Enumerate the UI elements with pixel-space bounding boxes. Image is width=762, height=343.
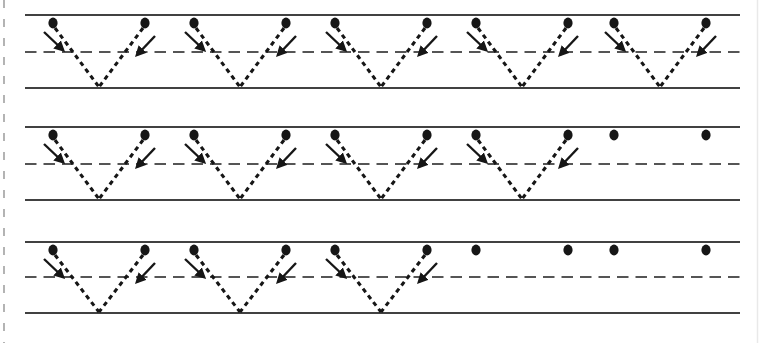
trace-stroke-down-left [240,28,284,87]
trace-stroke-down-left [522,28,566,87]
start-dot [701,130,710,141]
letter-v-trace-unit [185,245,296,312]
trace-stroke-down-right [196,140,240,199]
start-dot [140,245,149,256]
practice-row-1 [25,15,740,88]
start-dot [140,18,149,29]
trace-stroke-down-left [381,255,425,312]
stroke-direction-arrow-down-right [605,32,624,50]
trace-stroke-down-left [381,28,425,87]
trace-stroke-down-right [196,28,240,87]
start-dot [330,18,339,29]
start-dot [48,18,57,29]
worksheet-page [0,0,762,343]
stroke-direction-arrow-down-right [44,259,63,277]
start-dot [189,245,198,256]
stroke-direction-arrow-down-right [326,144,345,162]
start-dot [471,18,480,29]
trace-stroke-down-right [478,140,522,199]
start-dot [189,130,198,141]
trace-stroke-down-left [99,140,143,199]
start-dot [609,245,618,256]
stroke-direction-arrow-down-right [326,32,345,50]
stroke-direction-arrow-down-right [44,144,63,162]
stroke-direction-arrow-down-right [185,144,204,162]
stroke-direction-arrow-down-right [44,32,63,50]
start-dot [281,18,290,29]
letter-v-trace-unit [467,130,578,199]
start-dot [281,130,290,141]
trace-stroke-down-right [196,255,240,312]
start-dot [563,18,572,29]
trace-stroke-down-left [240,140,284,199]
letter-v-trace-unit [326,245,437,312]
start-dot [471,130,480,141]
practice-row-2 [25,127,740,200]
stroke-direction-arrow-down-right [326,259,345,277]
practice-rows-layer [25,15,740,313]
trace-stroke-down-left [240,255,284,312]
start-dot [422,18,431,29]
start-dot [422,130,431,141]
start-dot [563,130,572,141]
trace-stroke-down-right [55,140,99,199]
start-dots-only-unit [471,245,572,256]
start-dot [471,245,480,256]
start-dot [422,245,431,256]
trace-stroke-down-right [337,28,381,87]
trace-stroke-down-left [660,28,704,87]
trace-stroke-down-left [99,28,143,87]
start-dots-only-unit [609,245,710,256]
letter-v-trace-unit [467,18,578,87]
start-dot [330,245,339,256]
stroke-direction-arrow-down-left [278,263,296,282]
stroke-direction-arrow-down-right [185,32,204,50]
stroke-direction-arrow-down-left [137,263,155,282]
start-dot [701,245,710,256]
start-dot [609,130,618,141]
start-dot [609,18,618,29]
trace-stroke-down-right [337,255,381,312]
start-dot [563,245,572,256]
start-dots-only-unit [609,130,710,141]
start-dot [189,18,198,29]
start-dot [140,130,149,141]
stroke-direction-arrow-down-left [419,263,437,282]
trace-stroke-down-right [55,255,99,312]
stroke-direction-arrow-down-right [467,32,486,50]
start-dot [330,130,339,141]
letter-v-trace-unit [44,245,155,312]
trace-stroke-down-left [381,140,425,199]
trace-stroke-down-left [522,140,566,199]
trace-stroke-down-right [337,140,381,199]
start-dot [48,245,57,256]
start-dot [48,130,57,141]
trace-stroke-down-right [55,28,99,87]
practice-row-3 [25,242,740,313]
start-dot [701,18,710,29]
stroke-direction-arrow-down-right [467,144,486,162]
trace-stroke-down-right [478,28,522,87]
tracing-worksheet-canvas [0,0,762,343]
start-dot [281,245,290,256]
trace-stroke-down-right [616,28,660,87]
trace-stroke-down-left [99,255,143,312]
stroke-direction-arrow-down-right [185,259,204,277]
